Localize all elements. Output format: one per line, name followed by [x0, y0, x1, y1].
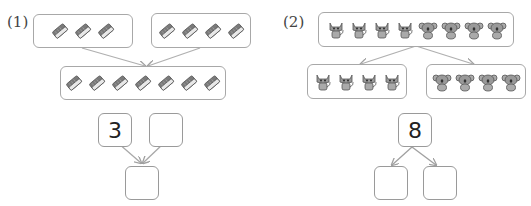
- eraser-group-combined: [60, 66, 226, 100]
- cat-icon: [359, 72, 379, 92]
- eraser-icon: [96, 21, 116, 41]
- eraser-icon: [157, 21, 177, 41]
- eraser-icon: [73, 21, 93, 41]
- eraser-icon: [180, 21, 200, 41]
- koala-icon: [441, 20, 461, 40]
- bond-1-right-part[interactable]: [149, 113, 183, 147]
- eraser-icon: [202, 73, 222, 93]
- bond-1-whole[interactable]: [125, 166, 159, 200]
- bond-2-left-part[interactable]: [374, 166, 408, 200]
- eraser-icon: [179, 73, 199, 93]
- eraser-group-top-left: [33, 14, 133, 48]
- cat-icon: [372, 20, 392, 40]
- cat-icon: [382, 72, 402, 92]
- eraser-icon: [110, 73, 130, 93]
- eraser-icon: [87, 73, 107, 93]
- cat-group-bottom-left: [307, 64, 407, 99]
- koala-icon: [418, 20, 438, 40]
- cat-icon: [326, 20, 346, 40]
- koala-icon: [464, 20, 484, 40]
- animal-group-top: [318, 12, 514, 47]
- eraser-icon: [133, 73, 153, 93]
- cat-icon: [349, 20, 369, 40]
- cat-icon: [395, 20, 415, 40]
- bond-2-whole[interactable]: 8: [398, 113, 432, 147]
- eraser-icon: [226, 21, 246, 41]
- koala-icon: [455, 72, 475, 92]
- koala-group-bottom-right: [426, 64, 526, 99]
- problem-1-label: (1): [7, 13, 28, 31]
- cat-icon: [336, 72, 356, 92]
- koala-icon: [478, 72, 498, 92]
- eraser-icon: [156, 73, 176, 93]
- koala-icon: [487, 20, 507, 40]
- eraser-icon: [64, 73, 84, 93]
- koala-icon: [501, 72, 521, 92]
- eraser-group-top-right: [151, 13, 251, 48]
- eraser-icon: [203, 21, 223, 41]
- cat-icon: [313, 72, 333, 92]
- eraser-icon: [50, 21, 70, 41]
- problem-2-label: (2): [283, 13, 304, 31]
- bond-1-left-part[interactable]: 3: [98, 113, 132, 147]
- bond-2-right-part[interactable]: [423, 166, 457, 200]
- koala-icon: [432, 72, 452, 92]
